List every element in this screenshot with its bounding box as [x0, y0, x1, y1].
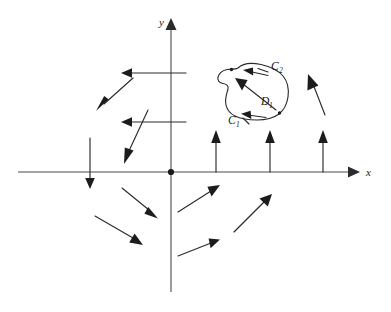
outer-curve-label-c2: C: [271, 60, 279, 72]
vector-field-diagram: y x: [0, 0, 391, 312]
curve-vertex-dot-top: [230, 68, 233, 71]
arrow-negative-x-downward: [85, 138, 95, 189]
arrow-q4-middle: [234, 194, 272, 232]
diagram-canvas: y x: [0, 0, 391, 312]
arrow-positive-x-up-middle: [265, 130, 275, 172]
outer-curve-label-c2-subscript: 2: [279, 66, 283, 75]
origin-point: [168, 169, 174, 175]
y-axis-label: y: [158, 16, 164, 28]
inner-curve-label-c1: C: [228, 114, 236, 126]
vector-field-group: [85, 68, 328, 256]
arrow-q3-lower: [95, 216, 143, 245]
arrow-positive-x-up-outer: [318, 130, 328, 172]
arrow-q2-diagonal-lower: [124, 110, 148, 164]
outer-curve-orientation-arrow: [243, 67, 268, 75]
arrow-q4-lower: [178, 238, 220, 256]
region-label-d1-subscript: 1: [269, 101, 273, 110]
arrow-q2-diagonal-upper: [96, 78, 133, 111]
inner-curve-orientation-arrow: [241, 111, 266, 119]
arrow-q4-upper: [178, 185, 220, 212]
curve-vertex-dot-bottom: [278, 111, 281, 114]
arrow-q2-upper-left-leftward-low: [121, 117, 186, 127]
inner-curve-label-c1-subscript: 1: [236, 120, 240, 129]
arrow-q3-upper: [122, 188, 158, 219]
x-axis-arrowhead: [348, 167, 360, 178]
arrow-positive-x-up-inner: [211, 130, 221, 172]
x-axis-label: x: [365, 166, 371, 178]
axes-group: [18, 18, 360, 292]
c2-leader-line: [258, 69, 268, 73]
arrow-q1-far-right-up-left: [307, 74, 325, 115]
y-axis-arrowhead: [166, 18, 177, 30]
arrow-q2-upper-left-leftward-high: [121, 68, 186, 78]
